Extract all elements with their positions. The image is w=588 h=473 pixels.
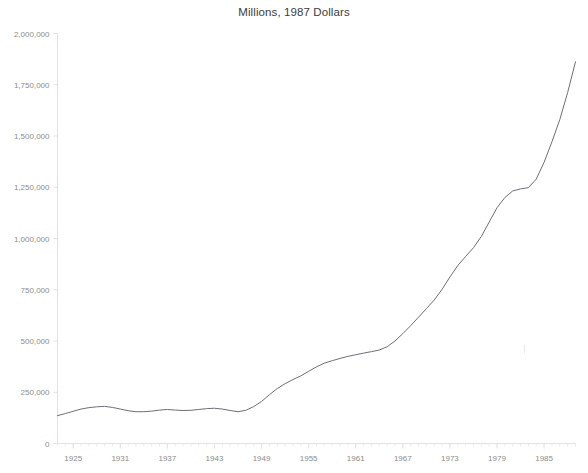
x-tick-label: 1925 [64, 454, 82, 463]
x-tick-label: 1967 [394, 454, 412, 463]
x-tick-label: 1979 [488, 454, 506, 463]
x-tick-label: 1961 [347, 454, 365, 463]
y-tick-label: 2,000,000 [14, 30, 50, 39]
data-line-series-0 [58, 62, 576, 416]
y-tick-label: 1,250,000 [14, 183, 50, 192]
x-tick-label: 1973 [441, 454, 459, 463]
x-tick-label: 1985 [535, 454, 553, 463]
chart-container: Millions, 1987 Dollars 0250,000500,00075… [0, 0, 588, 473]
y-tick-label: 1,500,000 [14, 132, 50, 141]
y-tick-label: 500,000 [21, 337, 50, 346]
x-tick-label: 1937 [158, 454, 176, 463]
x-tick-label: 1955 [300, 454, 318, 463]
y-tick-label: 1,750,000 [14, 81, 50, 90]
x-tick-label: 1949 [253, 454, 271, 463]
x-tick-label: 1943 [206, 454, 224, 463]
y-tick-label: 0 [45, 440, 50, 449]
y-tick-label: 750,000 [21, 286, 50, 295]
y-tick-label: 1,000,000 [14, 235, 50, 244]
y-tick-label: 250,000 [21, 388, 50, 397]
x-tick-label: 1931 [111, 454, 129, 463]
line-chart-plot: 0250,000500,000750,0001,000,0001,250,000… [0, 0, 588, 473]
